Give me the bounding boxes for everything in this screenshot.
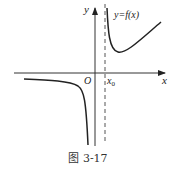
figure-caption: 图 3-17 [0, 149, 176, 165]
x-axis-label: x [161, 74, 167, 86]
y-axis-label: y [83, 3, 89, 15]
origin-label: O [84, 75, 91, 86]
curve-left-branch [24, 79, 88, 145]
asymptote-label: x0 [106, 75, 115, 88]
function-label: y=f(x) [113, 9, 140, 21]
